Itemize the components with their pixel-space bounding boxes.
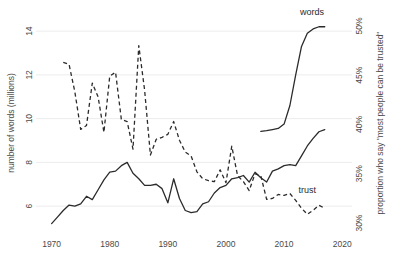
x-axis-tick-label: 2010 bbox=[275, 239, 294, 249]
x-axis-tick-label: 1990 bbox=[158, 239, 177, 249]
y-axis-right-title: proportion who say "most people can be t… bbox=[375, 32, 385, 215]
y-axis-right-tick-label: 45% bbox=[354, 66, 364, 83]
x-axis-tick-label: 2000 bbox=[216, 239, 235, 249]
x-axis-tick-label: 2020 bbox=[333, 239, 352, 249]
y-axis-left-tick-label: 14 bbox=[24, 26, 34, 36]
y-axis-right-tick-label: 30% bbox=[354, 214, 364, 231]
line-chart: 68101214 30%35%40%45%50% 197019801990200… bbox=[0, 0, 397, 260]
y-axis-left-tick-label: 8 bbox=[24, 160, 34, 165]
y-axis-left-tick-label: 12 bbox=[24, 70, 34, 80]
x-axis-tick-label: 1980 bbox=[100, 239, 119, 249]
y-axis-left-tick-label: 10 bbox=[24, 114, 34, 124]
y-axis-right-tick-label: 35% bbox=[354, 165, 364, 182]
x-axis-tick-label: 1970 bbox=[42, 239, 61, 249]
y-axis-left-title: number of words (millions) bbox=[6, 73, 16, 173]
chart-container: 68101214 30%35%40%45%50% 197019801990200… bbox=[0, 0, 397, 260]
series-label-trust: trust bbox=[299, 185, 317, 195]
y-axis-right-tick-label: 50% bbox=[354, 17, 364, 34]
y-axis-left-tick-label: 6 bbox=[24, 203, 34, 208]
chart-background bbox=[0, 0, 397, 260]
y-axis-right-tick-label: 40% bbox=[354, 116, 364, 133]
series-label-words: words bbox=[299, 7, 325, 17]
